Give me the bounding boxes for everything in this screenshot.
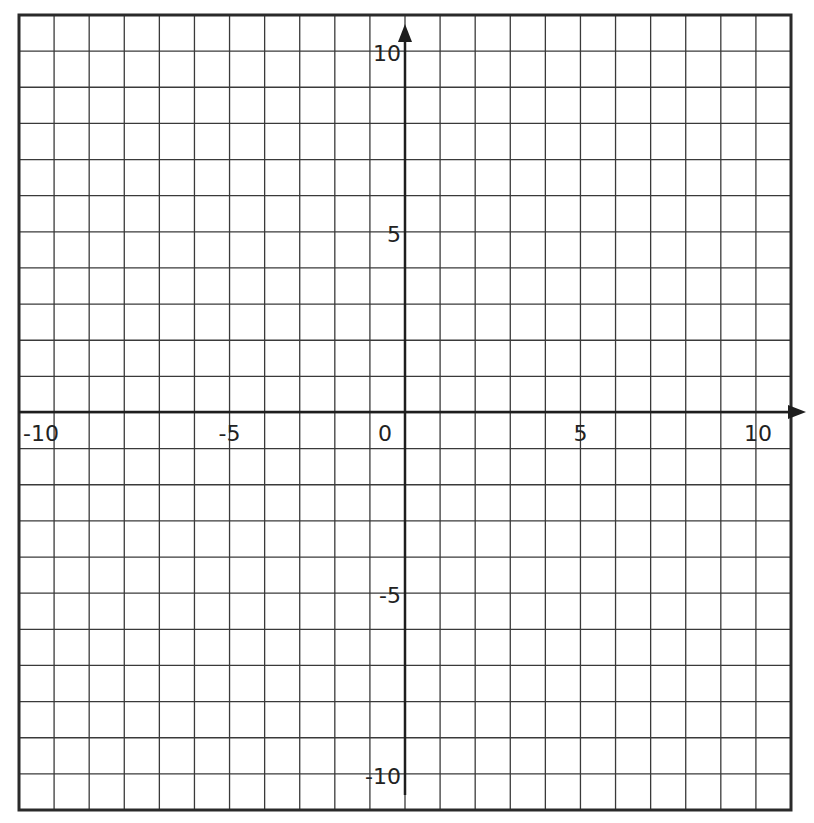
y-axis-label: -10: [365, 764, 401, 789]
y-axis-label: 5: [387, 222, 401, 247]
x-axis-label: 10: [744, 421, 772, 446]
x-axis-label: 0: [378, 421, 392, 446]
y-axis-arrow-icon: [398, 24, 412, 42]
y-axis-label: 10: [373, 41, 401, 66]
x-axis-arrow-icon: [788, 405, 806, 419]
x-axis-label: -10: [23, 421, 59, 446]
coordinate-grid: -10-50510105-5-10: [0, 0, 814, 823]
x-axis-label: 5: [573, 421, 587, 446]
axis-labels: -10-50510105-5-10: [23, 41, 772, 789]
y-axis-label: -5: [379, 583, 401, 608]
x-axis-label: -5: [219, 421, 241, 446]
axes: [19, 24, 806, 795]
